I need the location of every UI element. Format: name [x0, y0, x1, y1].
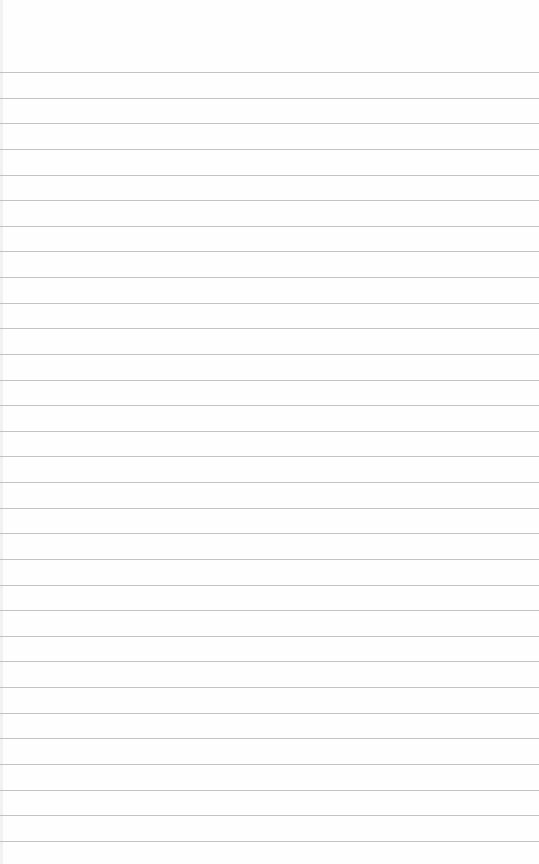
- ruled-line: [0, 790, 539, 791]
- ruled-line: [0, 380, 539, 381]
- ruled-line: [0, 98, 539, 99]
- ruled-line: [0, 226, 539, 227]
- ruled-line: [0, 661, 539, 662]
- lined-paper-sheet: [0, 0, 539, 864]
- ruled-line: [0, 123, 539, 124]
- ruled-line: [0, 636, 539, 637]
- ruled-line: [0, 738, 539, 739]
- ruled-line: [0, 149, 539, 150]
- ruled-line: [0, 303, 539, 304]
- ruled-line: [0, 815, 539, 816]
- ruled-line: [0, 764, 539, 765]
- ruled-line: [0, 175, 539, 176]
- ruled-line: [0, 277, 539, 278]
- ruled-line: [0, 431, 539, 432]
- ruled-line: [0, 328, 539, 329]
- ruled-line: [0, 456, 539, 457]
- ruled-line: [0, 713, 539, 714]
- ruled-line: [0, 508, 539, 509]
- ruled-line: [0, 72, 539, 73]
- ruled-line: [0, 251, 539, 252]
- paper-left-edge: [0, 0, 3, 864]
- ruled-line: [0, 533, 539, 534]
- ruled-line: [0, 687, 539, 688]
- ruled-line: [0, 482, 539, 483]
- ruled-line: [0, 559, 539, 560]
- ruled-line: [0, 200, 539, 201]
- ruled-line: [0, 610, 539, 611]
- ruled-line: [0, 405, 539, 406]
- ruled-line: [0, 354, 539, 355]
- ruled-line: [0, 841, 539, 842]
- ruled-line: [0, 585, 539, 586]
